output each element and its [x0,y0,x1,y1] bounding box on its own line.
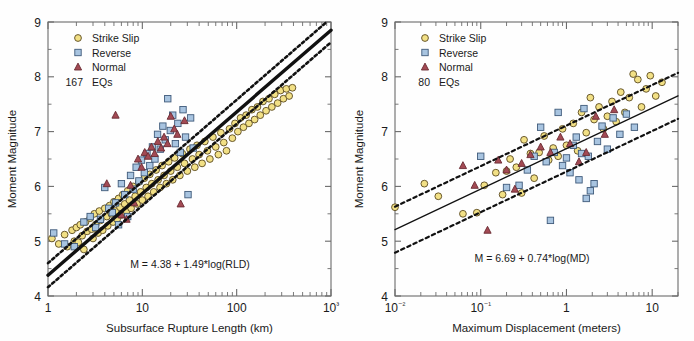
data-point-strike-slip [206,156,213,163]
data-point-normal [557,133,564,140]
y-tick-label: 8 [34,70,41,84]
data-point-normal [103,180,110,187]
data-point-reverse [559,162,565,168]
y-tick-label: 7 [381,125,388,139]
data-point-strike-slip [215,151,222,158]
data-point-reverse [547,217,553,223]
y-tick-label: 5 [381,235,388,249]
data-point-reverse [187,115,193,121]
x-tick-label: 100 [227,301,247,315]
data-point-reverse [172,140,178,146]
legend-triangle-icon [421,63,428,70]
scatter-plot-left: 45678911010010³ Subsurface Rupture Lengt… [0,0,347,341]
data-point-strike-slip [499,191,506,198]
data-point-strike-slip [583,129,590,136]
data-point-strike-slip [286,93,293,100]
data-point-reverse [623,111,629,117]
data-point-reverse [478,153,484,159]
data-point-strike-slip [647,72,654,79]
data-point-normal [112,111,119,118]
data-point-reverse [594,138,600,144]
data-point-strike-slip [617,89,624,96]
data-point-strike-slip [283,85,290,92]
data-point-strike-slip [61,231,68,238]
legend-eq-count: 80 [418,76,430,88]
data-point-reverse [581,105,587,111]
data-point-strike-slip [634,76,641,83]
data-point-strike-slip [251,116,258,123]
x-tick-label: 10 [646,301,660,315]
data-point-strike-slip [220,139,227,146]
data-point-strike-slip [421,180,428,187]
data-point-reverse [610,115,616,121]
data-point-reverse [591,180,597,186]
data-point-reverse [573,134,579,140]
legend-label: Normal [439,61,473,73]
y-tick-label: 7 [34,125,41,139]
data-point-reverse [175,120,181,126]
legend-triangle-icon [74,63,81,70]
data-point-strike-slip [531,175,538,182]
y-tick-label: 4 [34,290,41,304]
regression-line [48,30,331,275]
data-point-reverse [516,182,522,188]
data-point-normal [537,143,544,150]
data-point-reverse [617,131,623,137]
regression-line [395,96,678,230]
y-tick-label: 6 [381,180,388,194]
legend-square-icon [75,49,81,55]
data-point-normal [154,138,161,145]
data-point-strike-slip [223,147,230,154]
data-point-reverse [537,124,543,130]
data-point-strike-slip [638,104,645,111]
data-point-normal [611,106,618,113]
confidence-band [48,22,327,263]
legend-eq-count: 167 [65,76,83,88]
data-point-reverse [87,213,93,219]
y-axis-title: Moment Magnitude [353,110,365,208]
data-point-reverse [563,155,569,161]
x-tick-label: 10 [136,301,150,315]
x-tick-label: 1 [563,301,570,315]
x-tick-label: 10³ [323,300,339,315]
data-point-reverse [599,123,605,129]
data-point-strike-slip [274,100,281,107]
legend-label: Strike Slip [439,32,486,44]
data-point-reverse [147,162,153,168]
scatter-plot-right: 45678910⁻²10⁻¹110 Maximum Displacement (… [347,0,694,341]
regression-equation-label: M = 4.38 + 1.49*log(RLD) [130,258,250,270]
legend-circle-icon [75,35,82,42]
data-point-reverse [81,219,87,225]
caption-ghost-strip [0,329,694,341]
data-point-reverse [182,134,188,140]
data-point-normal [484,226,491,233]
data-point-reverse [631,124,637,130]
data-point-reverse [127,172,133,178]
legend-eq-unit: EQs [439,76,459,88]
legend-label: Reverse [92,47,131,59]
data-point-strike-slip [507,156,514,163]
data-point-reverse [165,96,171,102]
data-point-strike-slip [521,136,528,143]
data-point-strike-slip [492,169,499,176]
chart-panel-right: 45678910⁻²10⁻¹110 Maximum Displacement (… [347,0,694,341]
data-point-reverse [587,188,593,194]
data-point-normal [471,181,478,188]
data-point-strike-slip [652,93,659,100]
data-point-reverse [160,123,166,129]
data-point-strike-slip [435,193,442,200]
y-tick-label: 8 [381,70,388,84]
x-tick-label: 1 [45,301,52,315]
legend-label: Normal [92,61,126,73]
data-point-strike-slip [199,160,206,167]
y-tick-label: 6 [34,180,41,194]
x-tick-label: 10⁻¹ [470,300,491,315]
confidence-band [48,42,331,287]
legend-label: Strike Slip [92,32,139,44]
y-axis-title: Moment Magnitude [6,110,18,208]
data-point-reverse [576,177,582,183]
legend-circle-icon [422,35,429,42]
y-tick-label: 5 [34,235,41,249]
data-point-reverse [185,191,191,197]
y-tick-label: 9 [34,16,41,30]
